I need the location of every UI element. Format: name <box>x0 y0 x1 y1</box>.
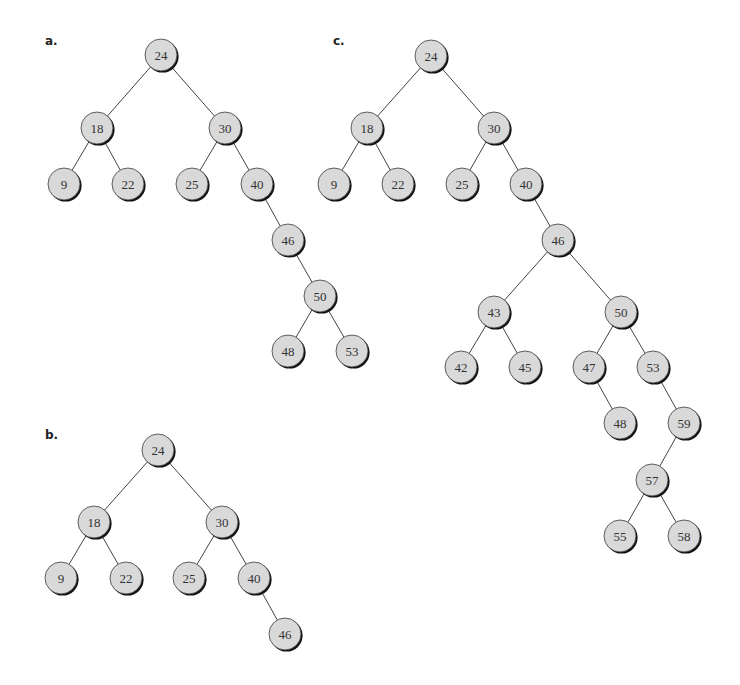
tree-node: 47 <box>573 351 607 385</box>
node-value: 9 <box>58 571 65 586</box>
tree-node: 40 <box>238 562 272 596</box>
tree-node: 25 <box>176 168 210 202</box>
tree-node: 40 <box>510 168 544 202</box>
node-value: 9 <box>331 177 338 192</box>
node-value: 22 <box>122 177 135 192</box>
tree-node: 22 <box>112 168 146 202</box>
node-value: 58 <box>678 529 691 544</box>
tree-node: 30 <box>209 112 243 146</box>
node-value: 48 <box>614 416 627 431</box>
tree-node: 57 <box>636 464 670 498</box>
tree-node: 55 <box>604 520 638 554</box>
tree-node: 46 <box>272 224 306 258</box>
tree-node: 30 <box>206 506 240 540</box>
node-value: 30 <box>216 515 229 530</box>
node-value: 57 <box>646 473 660 488</box>
node-value: 47 <box>583 360 597 375</box>
tree-node: 59 <box>668 407 702 441</box>
node-value: 22 <box>120 571 133 586</box>
tree-node: 58 <box>668 520 702 554</box>
tree-node: 22 <box>110 562 144 596</box>
tree-node: 9 <box>318 168 352 202</box>
node-value: 55 <box>614 529 627 544</box>
tree-node: 18 <box>78 506 112 540</box>
node-value: 40 <box>248 571 261 586</box>
node-value: 50 <box>615 305 628 320</box>
panel-label-b: b. <box>45 428 58 442</box>
tree-node: 18 <box>351 112 385 146</box>
node-value: 59 <box>678 416 691 431</box>
tree-node: 45 <box>509 351 543 385</box>
node-value: 18 <box>91 121 104 136</box>
node-value: 43 <box>488 305 501 320</box>
node-value: 30 <box>488 121 501 136</box>
node-value: 40 <box>520 177 533 192</box>
tree-diagram: 2418309222540465048532418309222540462418… <box>0 0 740 685</box>
node-value: 45 <box>519 360 532 375</box>
tree-node: 53 <box>637 351 671 385</box>
node-value: 30 <box>219 121 232 136</box>
tree-node: 46 <box>269 618 303 652</box>
node-value: 25 <box>186 177 199 192</box>
node-value: 46 <box>552 233 566 248</box>
node-value: 42 <box>455 360 468 375</box>
node-value: 25 <box>183 571 196 586</box>
tree-node: 9 <box>48 168 82 202</box>
tree-node: 30 <box>478 112 512 146</box>
node-value: 24 <box>425 49 439 64</box>
tree-node: 25 <box>446 168 480 202</box>
tree-node: 53 <box>336 335 370 369</box>
node-value: 24 <box>155 48 169 63</box>
node-value: 50 <box>314 289 327 304</box>
panel-label-c: c. <box>333 34 345 48</box>
node-value: 24 <box>152 443 166 458</box>
node-value: 9 <box>61 177 68 192</box>
node-value: 48 <box>282 344 295 359</box>
node-value: 18 <box>88 515 101 530</box>
tree-node: 25 <box>173 562 207 596</box>
tree-node: 42 <box>445 351 479 385</box>
tree-node: 9 <box>45 562 79 596</box>
tree-node: 50 <box>605 296 639 330</box>
tree-node: 48 <box>604 407 638 441</box>
node-value: 40 <box>251 177 264 192</box>
node-value: 18 <box>361 121 374 136</box>
tree-node: 18 <box>81 112 115 146</box>
node-value: 46 <box>282 233 296 248</box>
nodes-layer: 2418309222540465048532418309222540462418… <box>45 39 702 652</box>
tree-node: 50 <box>304 280 338 314</box>
node-value: 46 <box>279 627 293 642</box>
tree-node: 48 <box>272 335 306 369</box>
node-value: 53 <box>647 360 660 375</box>
node-value: 22 <box>392 177 405 192</box>
tree-node: 43 <box>478 296 512 330</box>
node-value: 53 <box>346 344 359 359</box>
tree-node: 40 <box>241 168 275 202</box>
panel-label-a: a. <box>45 34 58 48</box>
tree-node: 22 <box>382 168 416 202</box>
node-value: 25 <box>456 177 469 192</box>
